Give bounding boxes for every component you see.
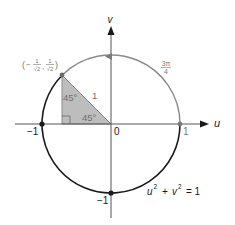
origin-label: 0	[114, 126, 120, 137]
point-3pi-over-4	[60, 73, 65, 78]
triangle-hypotenuse-label: 1	[92, 90, 97, 101]
arc-direction-arrow-icon	[105, 53, 112, 60]
triangle-angle-bottom: 45°	[82, 112, 97, 123]
unit-circle-diagram: v u 0 −1 1 −1 ( − 1 √2 , 1 √2 ) 3π 4 45°…	[0, 0, 235, 225]
point-one-u	[178, 122, 183, 127]
svg-text:+: +	[162, 186, 168, 197]
point-coordinate-label: ( − 1 √2 , 1 √2 )	[22, 58, 58, 72]
svg-text:√2: √2	[34, 66, 41, 72]
svg-text:1: 1	[35, 58, 39, 64]
svg-text:= 1: = 1	[186, 186, 201, 197]
svg-text:u: u	[147, 186, 153, 197]
point-neg-one-u	[39, 121, 44, 126]
svg-text:4: 4	[164, 68, 168, 75]
svg-text:√2: √2	[47, 66, 54, 72]
u-axis-label: u	[214, 117, 220, 129]
triangle-angle-top: 45°	[63, 92, 78, 103]
circle-equation: u 2 + v 2 = 1	[147, 183, 201, 197]
tick-label-u-neg: −1	[27, 126, 39, 137]
v-axis-label: v	[108, 14, 114, 25]
tick-label-v-neg: −1	[97, 195, 109, 206]
svg-text:,: ,	[42, 62, 44, 71]
svg-text:3π: 3π	[162, 60, 171, 67]
svg-text:2: 2	[154, 183, 158, 190]
svg-text:(: (	[22, 60, 25, 70]
svg-text:): )	[55, 60, 58, 70]
svg-text:1: 1	[48, 58, 52, 64]
arc-angle-label: 3π 4	[161, 60, 171, 75]
svg-text:2: 2	[178, 183, 182, 190]
tick-label-u-pos: 1	[183, 126, 189, 137]
svg-text:−: −	[26, 60, 31, 69]
v-axis-arrow-icon	[108, 26, 115, 35]
u-axis-arrow-icon	[200, 121, 209, 128]
point-neg-one-v	[108, 190, 113, 195]
